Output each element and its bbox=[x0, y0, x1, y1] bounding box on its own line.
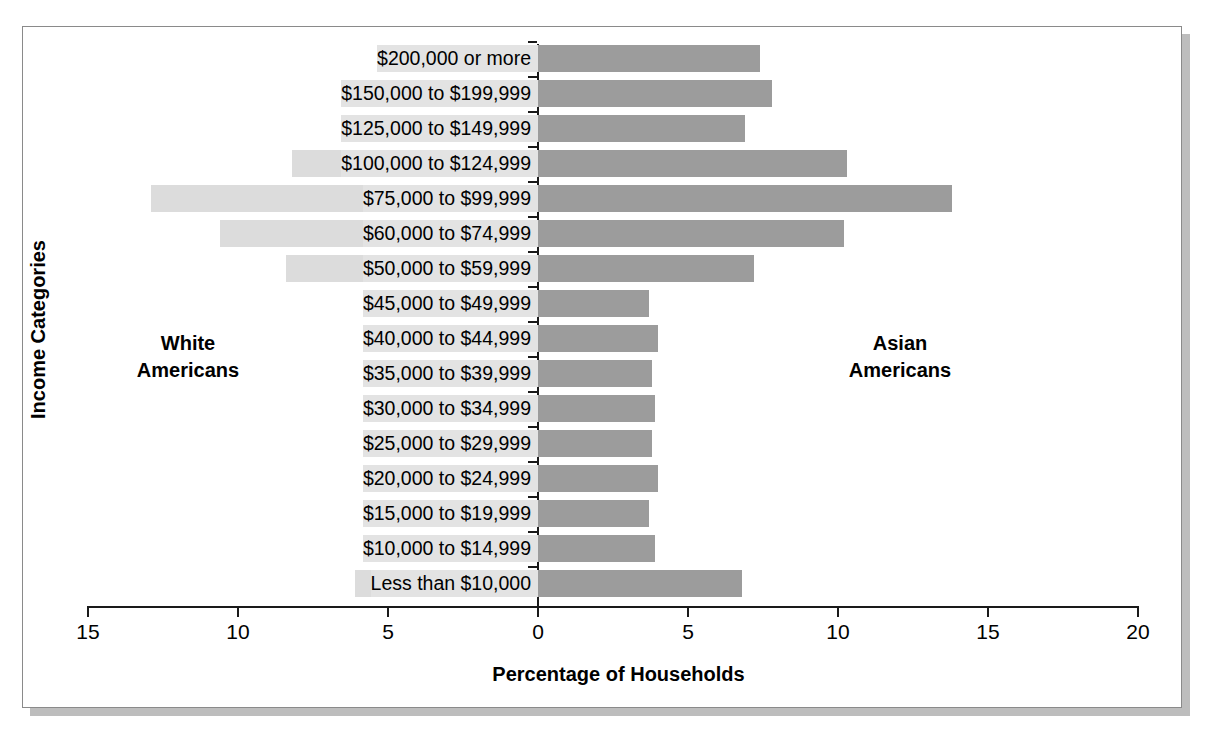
bar-right bbox=[538, 430, 652, 457]
plot-area: Percentage of Households Income Categori… bbox=[0, 0, 1205, 743]
x-axis-tick-label: 0 bbox=[508, 620, 568, 644]
x-axis-tick bbox=[87, 606, 89, 617]
category-label: $30,000 to $34,999 bbox=[363, 395, 538, 422]
x-axis-tick bbox=[987, 606, 989, 617]
y-axis-tick bbox=[528, 111, 537, 113]
x-axis-tick-label: 10 bbox=[208, 620, 268, 644]
y-axis-tick bbox=[528, 41, 537, 43]
bar-right bbox=[538, 360, 652, 387]
category-label: $125,000 to $149,999 bbox=[341, 115, 538, 142]
category-label: $60,000 to $74,999 bbox=[363, 220, 538, 247]
x-axis-tick-label: 5 bbox=[658, 620, 718, 644]
series-annotation-white: White Americans bbox=[88, 330, 288, 384]
category-label: $50,000 to $59,999 bbox=[363, 255, 538, 282]
x-axis-tick-label: 5 bbox=[358, 620, 418, 644]
y-axis-tick bbox=[528, 531, 537, 533]
bar-right bbox=[538, 220, 844, 247]
y-axis-tick bbox=[528, 146, 537, 148]
category-label: Less than $10,000 bbox=[371, 570, 538, 597]
x-axis-tick bbox=[837, 606, 839, 617]
bar-right bbox=[538, 150, 847, 177]
x-axis-tick-label: 20 bbox=[1108, 620, 1168, 644]
y-axis-tick bbox=[528, 251, 537, 253]
y-axis-tick bbox=[528, 356, 537, 358]
y-axis-tick bbox=[528, 426, 537, 428]
category-label: $15,000 to $19,999 bbox=[363, 500, 538, 527]
category-label: $35,000 to $39,999 bbox=[363, 360, 538, 387]
bar-right bbox=[538, 45, 760, 72]
y-axis-title: Income Categories bbox=[27, 200, 50, 460]
x-axis-tick-label: 15 bbox=[958, 620, 1018, 644]
category-label: $100,000 to $124,999 bbox=[341, 150, 538, 177]
x-axis-tick-label: 15 bbox=[58, 620, 118, 644]
bar-right bbox=[538, 290, 649, 317]
x-axis-tick bbox=[237, 606, 239, 617]
x-axis-tick bbox=[687, 606, 689, 617]
y-axis-tick bbox=[528, 461, 537, 463]
category-label: $200,000 or more bbox=[377, 45, 538, 72]
y-axis-tick bbox=[528, 496, 537, 498]
bar-right bbox=[538, 500, 649, 527]
x-axis-title-text: Percentage of Households bbox=[492, 663, 744, 685]
category-label: $40,000 to $44,999 bbox=[363, 325, 538, 352]
category-label: $45,000 to $49,999 bbox=[363, 290, 538, 317]
bar-right bbox=[538, 115, 745, 142]
y-axis-tick bbox=[528, 391, 537, 393]
bar-right bbox=[538, 80, 772, 107]
x-axis-title: Percentage of Households bbox=[0, 663, 1205, 686]
x-axis-line bbox=[88, 606, 1138, 608]
y-axis-tick bbox=[528, 286, 537, 288]
category-label: $20,000 to $24,999 bbox=[363, 465, 538, 492]
bar-right bbox=[538, 185, 952, 212]
y-axis-tick bbox=[528, 216, 537, 218]
bar-right bbox=[538, 570, 742, 597]
category-label: $10,000 to $14,999 bbox=[363, 535, 538, 562]
y-axis-tick bbox=[528, 566, 537, 568]
category-label: $25,000 to $29,999 bbox=[363, 430, 538, 457]
bar-right bbox=[538, 465, 658, 492]
y-axis-tick bbox=[528, 321, 537, 323]
x-axis-tick bbox=[1137, 606, 1139, 617]
x-axis-tick bbox=[387, 606, 389, 617]
y-axis-tick bbox=[528, 76, 537, 78]
x-axis-tick-label: 10 bbox=[808, 620, 868, 644]
chart-figure: Percentage of Households Income Categori… bbox=[0, 0, 1205, 743]
bar-right bbox=[538, 325, 658, 352]
y-axis-tick bbox=[528, 181, 537, 183]
bar-right bbox=[538, 255, 754, 282]
series-annotation-asian: Asian Americans bbox=[790, 330, 1010, 384]
category-label: $150,000 to $199,999 bbox=[341, 80, 538, 107]
bar-right bbox=[538, 535, 655, 562]
category-label: $75,000 to $99,999 bbox=[363, 185, 538, 212]
bar-right bbox=[538, 395, 655, 422]
x-axis-tick bbox=[537, 606, 539, 617]
